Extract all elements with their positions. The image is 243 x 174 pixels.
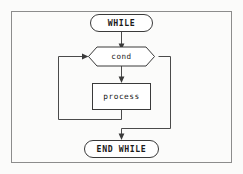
arrowhead-loop-back-into-condition xyxy=(82,54,89,60)
node-process[interactable]: process xyxy=(93,84,151,110)
node-while-start[interactable]: WHILE xyxy=(91,15,153,32)
arrowhead-into-process xyxy=(119,77,125,84)
flowchart-canvas: WHILE cond process END WHILE xyxy=(0,0,243,174)
node-condition[interactable]: cond xyxy=(89,47,155,66)
flowchart-svg: WHILE cond process END WHILE xyxy=(0,0,243,174)
arrowhead-into-end xyxy=(119,134,125,141)
process-label: process xyxy=(103,92,139,101)
while-start-label: WHILE xyxy=(108,18,136,28)
node-end-while[interactable]: END WHILE xyxy=(85,141,159,158)
end-while-label: END WHILE xyxy=(97,144,147,154)
condition-label: cond xyxy=(111,52,131,61)
